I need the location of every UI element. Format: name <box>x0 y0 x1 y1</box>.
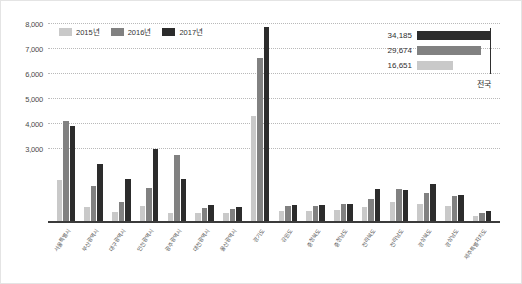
bar <box>313 206 319 221</box>
legend-swatch <box>59 28 72 36</box>
bar <box>97 164 103 221</box>
legend-label: 2015년 <box>76 26 100 37</box>
legend-swatch <box>162 28 175 36</box>
x-axis-tick-labels: 서울특별시부산광역시대구광역시인천광역시광주광역시대전광역시울산광역시경기도강원… <box>48 225 500 283</box>
x-axis-tick-label: 전라북도 <box>360 228 378 249</box>
bar <box>403 190 409 221</box>
inset-bar <box>417 31 491 40</box>
x-axis-tick-label: 인천광역시 <box>135 228 156 253</box>
x-tick-cell: 서울특별시 <box>52 225 80 283</box>
inset-caption: 전국 <box>477 78 491 89</box>
bar <box>57 180 63 221</box>
bar <box>292 205 298 221</box>
bar <box>140 206 146 221</box>
x-axis-tick-label: 서울특별시 <box>52 228 73 253</box>
bar <box>236 207 242 221</box>
inset-row: 34,185 <box>331 31 491 40</box>
bar <box>390 202 396 221</box>
inset-value-label: 34,185 <box>331 31 417 40</box>
x-tick-cell: 충청남도 <box>330 225 358 283</box>
legend-item: 2017년 <box>162 26 203 37</box>
x-tick-cell: 전라남도 <box>385 225 413 283</box>
bar <box>452 196 458 221</box>
x-axis-tick-label: 대구광역시 <box>107 228 128 253</box>
bar <box>417 204 423 221</box>
bar <box>479 213 485 221</box>
bar <box>362 207 368 221</box>
bar <box>223 213 229 221</box>
x-tick-cell: 인천광역시 <box>135 225 163 283</box>
legend-item: 2016년 <box>111 26 152 37</box>
x-tick-cell: 제주특별자치도 <box>468 225 496 283</box>
x-tick-cell: 전라북도 <box>357 225 385 283</box>
y-axis-tick-label: 6,000 <box>25 70 43 79</box>
bar-group <box>302 23 330 221</box>
bar <box>341 204 347 221</box>
bar <box>181 179 187 221</box>
bar <box>153 149 159 221</box>
x-axis-tick-label: 부산광역시 <box>80 228 101 253</box>
legend-item: 2015년 <box>59 26 100 37</box>
bar <box>63 121 69 221</box>
inset-bar <box>417 46 481 55</box>
y-axis-tick-label: 7,000 <box>25 45 43 54</box>
x-axis-line <box>48 221 500 223</box>
bar <box>208 205 214 221</box>
x-axis-tick-label: 경상남도 <box>443 228 461 249</box>
bar <box>168 213 174 221</box>
bar <box>195 213 201 221</box>
x-axis-tick-label: 울산광역시 <box>218 228 239 253</box>
bar-group <box>246 23 274 221</box>
x-axis-tick-label: 대전광역시 <box>191 228 212 253</box>
bar <box>202 208 208 221</box>
x-axis-tick-label: 충청남도 <box>332 228 350 249</box>
bar-group <box>80 23 108 221</box>
bar <box>334 210 340 221</box>
x-tick-cell: 경상북도 <box>413 225 441 283</box>
bar <box>112 212 118 221</box>
x-tick-cell: 대전광역시 <box>191 225 219 283</box>
legend-label: 2017년 <box>179 26 203 37</box>
x-axis-tick-label: 경상북도 <box>415 228 433 249</box>
bar-chart-figure: 8,0007,0006,0005,0004,0003,000 서울특별시부산광역… <box>0 0 522 284</box>
inset-value-label: 29,674 <box>331 46 417 55</box>
bar <box>264 27 270 221</box>
bar <box>119 202 125 221</box>
x-axis-tick-label: 전라남도 <box>388 228 406 249</box>
inset-row: 16,651 <box>331 61 491 70</box>
y-axis-tick-label: 5,000 <box>25 95 43 104</box>
x-tick-cell: 광주광역시 <box>163 225 191 283</box>
bar-group <box>52 23 80 221</box>
bar <box>347 204 353 221</box>
y-axis-tick-label: 4,000 <box>25 120 43 129</box>
x-axis-tick-label: 충청북도 <box>304 228 322 249</box>
x-tick-cell: 충청북도 <box>302 225 330 283</box>
legend-swatch <box>111 28 124 36</box>
y-axis-tick-label: 3,000 <box>25 145 43 154</box>
x-tick-cell: 부산광역시 <box>80 225 108 283</box>
bar <box>91 186 97 221</box>
inset-bar <box>417 61 453 70</box>
bar <box>445 206 451 221</box>
y-axis-tick-label: 8,000 <box>25 20 43 29</box>
bar <box>146 188 152 221</box>
bar <box>458 195 464 221</box>
bar <box>279 211 285 221</box>
x-tick-cell: 경기도 <box>246 225 274 283</box>
bar <box>174 155 180 221</box>
bar <box>125 179 131 221</box>
bar <box>430 184 436 221</box>
inset-row: 29,674 <box>331 46 491 55</box>
bar <box>424 193 430 221</box>
bar <box>251 116 257 221</box>
bar <box>396 189 402 221</box>
bar <box>285 206 291 221</box>
bar-group <box>135 23 163 221</box>
bar-group <box>191 23 219 221</box>
x-axis-tick-label: 강원도 <box>279 228 294 245</box>
chart-legend: 2015년2016년2017년 <box>59 26 203 37</box>
bar <box>486 211 492 221</box>
bar <box>368 199 374 221</box>
x-tick-cell: 대구광역시 <box>108 225 136 283</box>
x-tick-cell: 울산광역시 <box>219 225 247 283</box>
